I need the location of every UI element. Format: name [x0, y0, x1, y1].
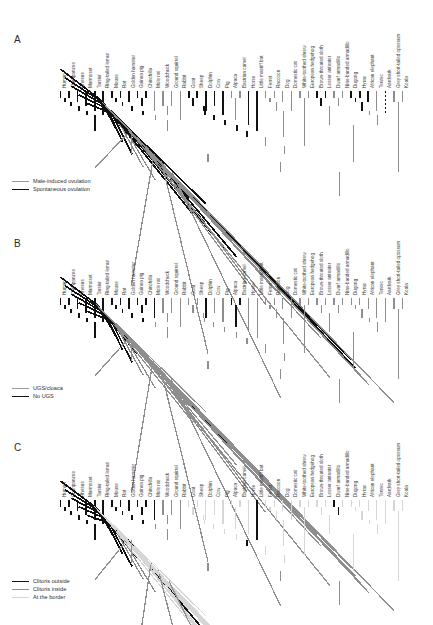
- tree-branch: [61, 277, 97, 304]
- tree-branch: [65, 78, 102, 102]
- tree-branch: [131, 563, 151, 625]
- legend-row: No UGS: [12, 393, 63, 400]
- tree-branch: [122, 534, 330, 625]
- tree-branch: [95, 338, 130, 376]
- legend-label: Spontaneous ovulation: [33, 186, 90, 193]
- legend-swatch: [12, 589, 29, 590]
- panel-c-legend: Clitoris outsideClitoris insideAt the bo…: [12, 578, 70, 602]
- legend-label: Clitoris inside: [33, 586, 66, 593]
- tree-branch: [105, 313, 193, 422]
- legend-row: At the border: [12, 594, 70, 601]
- legend-swatch: [12, 181, 29, 182]
- legend-label: UGS/cloaca: [33, 385, 63, 392]
- legend-label: At the border: [33, 594, 65, 601]
- tree-branch: [108, 520, 362, 625]
- tree-branch: [95, 507, 352, 625]
- panel-b: B HumanChimpanzeeRhesusMarmosetTarsierRi…: [0, 208, 433, 413]
- tree-branch: [103, 515, 321, 625]
- tree-branch: [106, 106, 193, 214]
- legend-swatch: [12, 597, 29, 598]
- legend-row: Clitoris inside: [12, 586, 70, 593]
- legend-label: No UGS: [33, 393, 54, 400]
- legend-row: Clitoris outside: [12, 578, 70, 585]
- panel-c: C HumanChimpanzeeRhesusMarmosetTarsierRi…: [0, 412, 433, 625]
- panel-a-legend: Male-induced ovulationSpontaneous ovulat…: [12, 178, 91, 194]
- legend-row: Male-induced ovulation: [12, 178, 91, 185]
- legend-row: Spontaneous ovulation: [12, 186, 91, 193]
- legend-swatch: [12, 581, 29, 582]
- panel-b-legend: UGS/cloacaNo UGS: [12, 385, 63, 401]
- tree-branch: [95, 131, 131, 168]
- tree-branch: [103, 515, 193, 625]
- tree-branch: [99, 511, 394, 625]
- legend-swatch: [12, 189, 29, 190]
- legend-row: UGS/cloaca: [12, 385, 63, 392]
- legend-swatch: [12, 388, 29, 389]
- tree-branch: [122, 534, 225, 625]
- legend-label: Clitoris outside: [33, 578, 70, 585]
- tree-branch: [61, 69, 98, 97]
- legend-swatch: [12, 396, 29, 397]
- tree-branch: [95, 507, 232, 625]
- panel-a: A HumanChimpanzeeRhesusMarmosetTarsierRi…: [0, 0, 433, 210]
- legend-label: Male-induced ovulation: [33, 178, 91, 185]
- tree-branch: [95, 540, 128, 580]
- panel-b-tree: [0, 208, 433, 413]
